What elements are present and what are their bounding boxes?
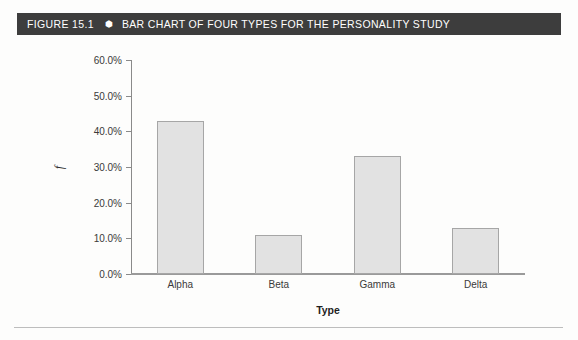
y-axis-tick-label: 40.0%	[94, 126, 122, 137]
y-axis-tick-label: 20.0%	[94, 197, 122, 208]
hexagon-bullet-icon: ⬢	[105, 20, 113, 29]
figure-caption-bar: FIGURE 15.1 ⬢ BAR CHART OF FOUR TYPES FO…	[17, 13, 561, 35]
y-axis-tick-labels: 60.0%50.0%40.0%30.0%20.0%10.0%0.0%	[78, 42, 122, 312]
y-axis-title: f	[52, 166, 67, 169]
figure-title: BAR CHART OF FOUR TYPES FOR THE PERSONAL…	[122, 18, 450, 30]
y-axis-tick-label: 10.0%	[94, 233, 122, 244]
x-axis-tick-label: Alpha	[167, 279, 193, 290]
x-axis-title: Type	[131, 304, 525, 316]
x-axis-tick-label: Beta	[268, 279, 289, 290]
bar	[354, 156, 401, 274]
y-axis-tick-label: 30.0%	[94, 162, 122, 173]
x-axis-tick-label: Delta	[464, 279, 487, 290]
figure-number: FIGURE 15.1	[27, 18, 94, 30]
x-axis-tick-labels: AlphaBetaGammaDelta	[131, 279, 525, 297]
bar	[157, 121, 204, 274]
bar-chart: 60.0%50.0%40.0%30.0%20.0%10.0%0.0% f Alp…	[0, 42, 578, 312]
y-axis-tick-label: 60.0%	[94, 55, 122, 66]
y-axis-tick-label: 50.0%	[94, 90, 122, 101]
bar-series	[131, 42, 525, 274]
y-axis-tick-label: 0.0%	[99, 269, 122, 280]
bar	[452, 228, 499, 274]
x-axis-tick-label: Gamma	[359, 279, 395, 290]
page-divider-rule	[14, 327, 563, 328]
bar	[255, 235, 302, 274]
